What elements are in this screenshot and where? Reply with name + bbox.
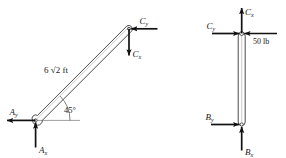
label-member-length: 6 √2 ft <box>44 65 68 75</box>
label-force-bx: Bx <box>245 147 254 157</box>
label-force-by: By <box>206 112 215 123</box>
label-force-cy: Cy <box>140 16 149 27</box>
vertical-member-bc <box>238 33 245 126</box>
label-force-cx: Cx <box>245 7 254 18</box>
member-body <box>32 25 132 125</box>
label-applied-load: 50 lb <box>253 37 269 46</box>
label-force-cy: Cy <box>207 21 216 32</box>
inclined-member-ac <box>32 25 132 125</box>
left-diagram-group: Ay Ax Cy Cx 6 √2 ft 45° <box>7 16 158 156</box>
label-force-ax: Ax <box>38 145 48 156</box>
joint-b <box>240 123 243 126</box>
right-diagram-group: Cx Cy By Bx 50 lb <box>206 7 278 158</box>
label-force-ay: Ay <box>9 107 19 118</box>
label-incline-angle: 45° <box>64 105 76 115</box>
figure-canvas: Ay Ax Cy Cx 6 √2 ft 45° <box>0 0 286 157</box>
free-body-diagram-figure: Ay Ax Cy Cx 6 √2 ft 45° <box>0 0 286 157</box>
label-force-cx: Cx <box>133 49 142 60</box>
